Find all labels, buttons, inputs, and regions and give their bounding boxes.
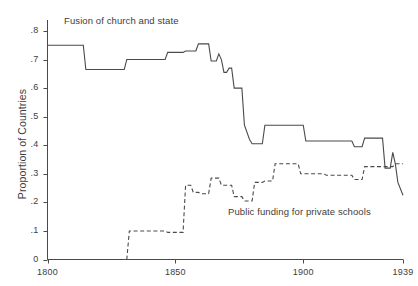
- chart-figure: Proportion of Countries 0.1.2.3.4.5.6.7.…: [0, 0, 418, 286]
- y-axis-tick-label: .2: [21, 196, 39, 206]
- y-axis-tick-label: .4: [21, 139, 39, 149]
- y-axis-ticks: [44, 32, 48, 261]
- y-axis-tick-label: .8: [21, 25, 39, 35]
- y-axis-tick-label: .5: [21, 111, 39, 121]
- y-axis-tick-label: .1: [21, 225, 39, 235]
- series-annotation-funding: Public funding for private schools: [228, 206, 371, 217]
- series-annotation-fusion: Fusion of church and state: [64, 15, 179, 26]
- axis-lines: [48, 20, 404, 260]
- y-axis-tick-label: .6: [21, 82, 39, 92]
- x-axis-tick-label: 1939: [383, 267, 418, 277]
- y-axis-tick-label: .3: [21, 168, 39, 178]
- y-axis-tick-label: .7: [21, 54, 39, 64]
- x-axis-tick-label: 1800: [28, 267, 68, 277]
- x-axis-ticks: [49, 260, 404, 264]
- data-series-group: [48, 44, 404, 260]
- x-axis-tick-label: 1900: [283, 267, 323, 277]
- y-axis-tick-label: 0: [21, 254, 39, 264]
- data-series-line-0: [48, 44, 404, 195]
- x-axis-tick-label: 1850: [155, 267, 195, 277]
- chart-plot-area: [0, 0, 418, 286]
